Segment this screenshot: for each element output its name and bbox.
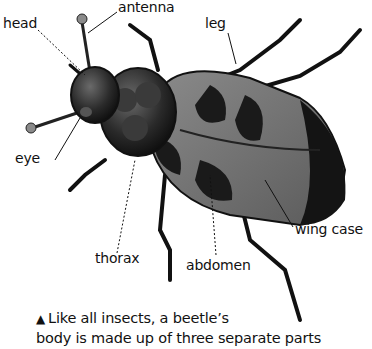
caption-line-2: body is made up of three separate parts bbox=[36, 329, 321, 348]
label-leg: leg bbox=[205, 16, 226, 30]
label-head: head bbox=[3, 16, 37, 30]
label-antenna: antenna bbox=[118, 0, 174, 14]
caption-line-1: Like all insects, a beetle’s bbox=[48, 310, 229, 326]
label-abdomen: abdomen bbox=[186, 258, 251, 272]
label-eye: eye bbox=[15, 151, 40, 165]
caption: ▲Like all insects, a beetle’s body is ma… bbox=[36, 309, 321, 348]
label-wing-case: wing case bbox=[295, 222, 363, 236]
label-thorax: thorax bbox=[95, 251, 139, 265]
triangle-marker-icon: ▲ bbox=[36, 312, 45, 326]
